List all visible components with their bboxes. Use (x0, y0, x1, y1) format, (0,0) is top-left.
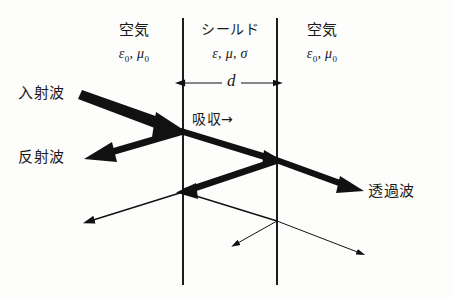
secondary-reflected-ray (90, 192, 183, 221)
left-air-permittivity: ε0 (119, 46, 130, 61)
internal-reflection-path (176, 157, 277, 199)
shielding-diagram: 空気 ε0, μ0 シールド ε, μ, σ 空気 ε0, μ0 d 入射波 反… (0, 0, 453, 298)
left-air-param-sep: , (129, 46, 137, 61)
reflected-wave-arrow (84, 128, 184, 162)
secondary-internal-reflection-ray (236, 221, 277, 244)
region-params-right-air: ε0, μ0 (288, 46, 356, 64)
incident-wave-label: 入射波 (18, 85, 65, 102)
region-label-shield: シールド (185, 22, 275, 38)
region-params-shield: ε, μ, σ (186, 46, 274, 62)
absorption-label-group: 吸収→ (192, 112, 233, 128)
shield-param-sep-2: , (233, 46, 241, 61)
absorption-arrow-icon: → (221, 111, 233, 127)
right-air-param-sep: , (317, 46, 325, 61)
region-label-right-air: 空気 (291, 22, 353, 39)
left-air-permeability: μ0 (137, 46, 149, 61)
right-air-permittivity: ε0 (307, 46, 318, 61)
diagram-canvas (0, 0, 453, 298)
incident-wave-arrow (78, 90, 186, 137)
region-label-left-air: 空気 (103, 22, 165, 39)
shield-param-sep-1: , (218, 46, 226, 61)
transmitted-wave-arrow (277, 157, 364, 193)
secondary-internal-ray (183, 192, 277, 221)
right-air-permeability: μ0 (325, 46, 337, 61)
absorption-label: 吸収 (192, 111, 221, 127)
shield-permeability: μ (226, 46, 233, 61)
reflected-wave-label: 反射波 (18, 149, 65, 166)
shield-conductivity: σ (241, 46, 248, 61)
thickness-label-d: d (222, 71, 241, 90)
transmitted-wave-label: 透過波 (368, 183, 415, 200)
secondary-transmitted-ray (277, 221, 360, 253)
region-params-left-air: ε0, μ0 (100, 46, 168, 64)
